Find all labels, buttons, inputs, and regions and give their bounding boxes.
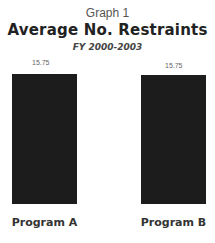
- value-label: 15.75: [165, 62, 183, 69]
- bar-program-a: [12, 74, 77, 204]
- bar-chart: 15.75Program A15.75Program B: [0, 0, 215, 243]
- category-label: Program A: [12, 216, 78, 229]
- value-label: 15.75: [32, 59, 50, 66]
- bar-program-b: [141, 75, 206, 204]
- category-label: Program B: [141, 216, 206, 229]
